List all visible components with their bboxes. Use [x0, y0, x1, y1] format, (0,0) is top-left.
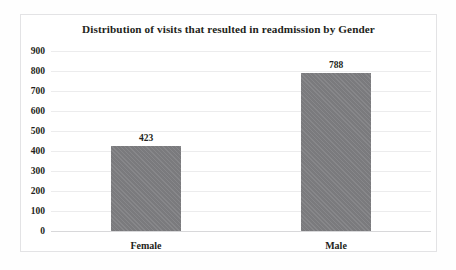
x-axis-category-label: Male — [281, 240, 391, 251]
y-axis-tick-label: 400 — [31, 146, 45, 156]
y-axis-tick-label: 600 — [31, 106, 45, 116]
gridline — [51, 71, 431, 72]
gridline — [51, 151, 431, 152]
chart-frame: Distribution of visits that resulted in … — [20, 14, 437, 252]
y-axis-tick-label: 900 — [31, 46, 45, 56]
bar[interactable] — [111, 146, 181, 231]
gridline — [51, 171, 431, 172]
y-axis-tick-label: 800 — [31, 66, 45, 76]
plot-area: 9008007006005004003002001000423Female788… — [51, 51, 431, 231]
chart-title: Distribution of visits that resulted in … — [21, 23, 436, 35]
bar-group: 423Female — [111, 51, 181, 231]
y-axis-tick-label: 300 — [31, 166, 45, 176]
gridline — [51, 111, 431, 112]
gridline — [51, 191, 431, 192]
chart-screenshot: Distribution of visits that resulted in … — [0, 0, 456, 270]
y-axis-tick-label: 200 — [31, 186, 45, 196]
y-axis-tick-label: 700 — [31, 86, 45, 96]
x-axis-category-label: Female — [91, 240, 201, 251]
y-axis-tick-label: 500 — [31, 126, 45, 136]
y-axis-tick-label: 100 — [31, 206, 45, 216]
bar-group: 788Male — [301, 51, 371, 231]
gridline — [51, 51, 431, 52]
bar[interactable] — [301, 73, 371, 231]
gridline — [51, 131, 431, 132]
bar-value-label: 788 — [301, 60, 371, 70]
bar-value-label: 423 — [111, 133, 181, 143]
axis-baseline — [51, 231, 431, 232]
y-axis-tick-label: 0 — [40, 226, 45, 236]
gridline — [51, 91, 431, 92]
gridline — [51, 211, 431, 212]
